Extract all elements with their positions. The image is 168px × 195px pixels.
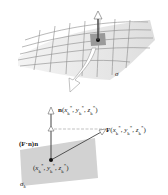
flux-diagram (0, 0, 168, 195)
label-normal: n(xk*, yk*, zk*) (58, 105, 98, 116)
label-field: F(xk*, yk*, zk*) (106, 125, 146, 136)
label-point: (xk*, yk*, zk*) (33, 163, 69, 174)
label-sigma-k: σk (20, 180, 26, 189)
surface-sigma (18, 11, 155, 80)
label-sigma: σ (115, 70, 118, 78)
label-projection: (F·n)n (19, 140, 38, 148)
